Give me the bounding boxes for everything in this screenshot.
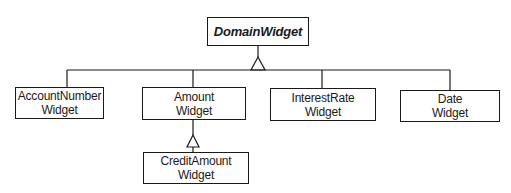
class-name-line1: Date	[438, 92, 463, 106]
class-name-line2: Widget	[305, 105, 341, 119]
class-interest-rate-widget: InterestRate Widget	[270, 88, 376, 121]
class-date-widget: Date Widget	[400, 90, 500, 122]
class-name-line1: Amount	[174, 90, 214, 104]
class-name-line1: AccountNumber	[18, 89, 101, 103]
class-name-line1: CreditAmount	[161, 154, 232, 168]
class-amount-widget: Amount Widget	[142, 87, 246, 120]
class-name-line2: Widget	[41, 103, 77, 117]
class-name: DomainWidget	[214, 25, 302, 39]
class-domain-widget: DomainWidget	[207, 17, 309, 46]
class-account-number-widget: AccountNumber Widget	[15, 87, 104, 119]
class-name-line2: Widget	[432, 106, 468, 120]
class-name-line1: InterestRate	[292, 91, 355, 105]
class-name-line2: Widget	[176, 104, 212, 118]
class-credit-amount-widget: CreditAmount Widget	[143, 152, 249, 184]
class-name-line2: Widget	[178, 168, 214, 182]
generalization-arrow	[251, 57, 265, 70]
